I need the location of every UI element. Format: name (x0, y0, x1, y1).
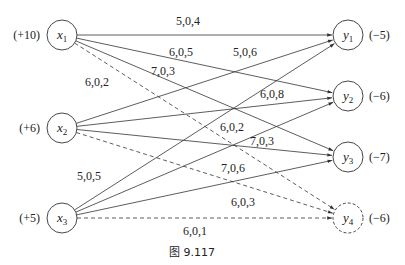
node-y3: y3(−7) (333, 142, 390, 172)
edge-label-x3-y3: 7,0,6 (221, 161, 245, 175)
network-flow-diagram: 5,0,46,0,57,0,36,0,25,0,66,0,87,0,36,0,3… (0, 0, 405, 265)
supply-label-x2: (+6) (19, 121, 40, 135)
edge-label-x3-y2: 6,0,2 (220, 120, 244, 134)
edge-label-x2-y1: 5,0,6 (233, 45, 257, 59)
demand-label-y2: (−6) (369, 89, 390, 103)
node-y1: y1(−5) (333, 20, 390, 50)
edge-label-x1-y2: 6,0,5 (169, 45, 193, 59)
nodes-layer: x1(+10)x2(+6)x3(+5)y1(−5)y2(−6)y3(−7)y4(… (13, 20, 390, 233)
edge-x3-y2 (76, 102, 333, 212)
supply-label-x3: (+5) (19, 211, 40, 225)
edge-labels-layer: 5,0,46,0,57,0,36,0,25,0,66,0,87,0,36,0,3… (77, 14, 284, 238)
edge-x2-y1 (76, 40, 333, 123)
edge-label-x1-y4: 6,0,2 (85, 75, 109, 89)
edge-label-x1-y1: 5,0,4 (176, 14, 200, 28)
edge-x1-y2 (77, 38, 333, 93)
node-y4: y4(−6) (333, 203, 390, 233)
node-x1: x1(+10) (13, 20, 77, 50)
edge-label-x3-y4: 6,0,1 (183, 224, 207, 238)
demand-label-y1: (−5) (369, 28, 390, 42)
node-x3: x3(+5) (19, 203, 77, 233)
edge-x2-y4 (76, 133, 332, 214)
edge-label-x1-y3: 7,0,3 (151, 64, 175, 78)
edge-x2-y2 (77, 98, 332, 127)
demand-label-y3: (−7) (369, 150, 390, 164)
edge-x2-y3 (77, 130, 332, 156)
edge-label-x3-y1: 5,0,5 (77, 169, 101, 183)
edges-layer (75, 35, 335, 218)
edge-x3-y3 (77, 160, 333, 215)
figure-caption: 图 9.117 (169, 246, 215, 259)
edge-x3-y1 (75, 44, 335, 210)
edge-label-x2-y3: 7,0,3 (250, 134, 274, 148)
edge-x1-y3 (76, 41, 333, 151)
edge-label-x2-y4: 6,0,3 (231, 195, 255, 209)
node-y2: y2(−6) (333, 81, 390, 111)
edge-label-x2-y2: 6,0,8 (260, 87, 284, 101)
node-x2: x2(+6) (19, 113, 77, 143)
edge-x1-y4 (75, 43, 335, 209)
supply-label-x1: (+10) (13, 28, 40, 42)
demand-label-y4: (−6) (369, 211, 390, 225)
